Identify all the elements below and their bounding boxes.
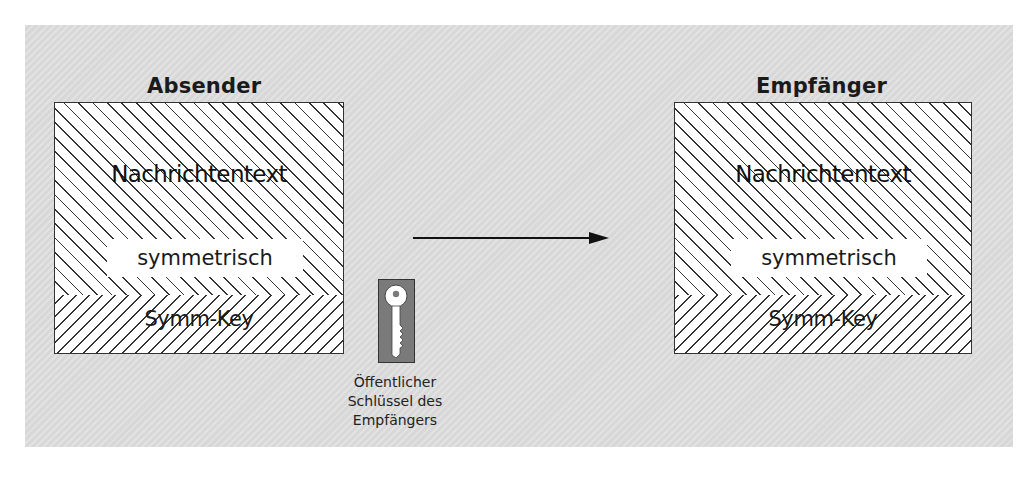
arrow-right-icon: [413, 230, 613, 246]
sender-symmkey-label: Symm-Key: [55, 307, 343, 331]
sender-encryption-label: symmetrisch: [107, 239, 303, 277]
key-caption-line-2: Schlüssel des: [330, 392, 460, 411]
receiver-message-section: Nachrichtentext symmetrisch: [675, 103, 971, 296]
key-caption: Öffentlicher Schlüssel des Empfängers: [330, 373, 460, 430]
sender-message-label: Nachrichtentext: [55, 161, 343, 187]
receiver-package: Nachrichtentext symmetrisch Symm-Key: [674, 102, 972, 354]
sender-title: Absender: [147, 74, 261, 98]
receiver-title: Empfänger: [756, 74, 887, 98]
receiver-symmkey-label: Symm-Key: [675, 307, 971, 331]
key-caption-line-1: Öffentlicher: [330, 373, 460, 392]
sender-symmkey-section: Symm-Key: [55, 295, 343, 353]
receiver-encryption-label: symmetrisch: [731, 239, 927, 277]
sender-package: Nachrichtentext symmetrisch Symm-Key: [54, 102, 344, 354]
receiver-symmkey-section: Symm-Key: [675, 295, 971, 353]
receiver-message-label: Nachrichtentext: [675, 161, 971, 187]
key-icon: [378, 279, 415, 363]
sender-message-section: Nachrichtentext symmetrisch: [55, 103, 343, 296]
key-caption-line-3: Empfängers: [330, 411, 460, 430]
